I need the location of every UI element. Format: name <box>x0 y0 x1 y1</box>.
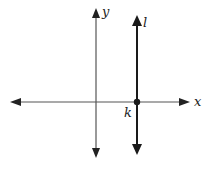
x-axis <box>10 98 190 106</box>
point-k-label: k <box>124 105 132 120</box>
coordinate-diagram: y l x k <box>0 0 211 170</box>
line-l-down-arrow-icon <box>132 144 142 155</box>
x-axis-left-arrow-icon <box>10 98 21 106</box>
x-axis-label: x <box>194 94 202 109</box>
y-axis-label: y <box>101 4 110 19</box>
y-axis-up-arrow-icon <box>92 8 100 18</box>
line-l-up-arrow-icon <box>132 15 142 26</box>
x-axis-right-arrow-icon <box>179 98 190 106</box>
y-axis-down-arrow-icon <box>92 148 100 158</box>
point-k <box>134 99 140 105</box>
line-l-label: l <box>143 15 147 30</box>
vertical-line-l <box>132 15 142 155</box>
y-axis <box>92 8 100 158</box>
